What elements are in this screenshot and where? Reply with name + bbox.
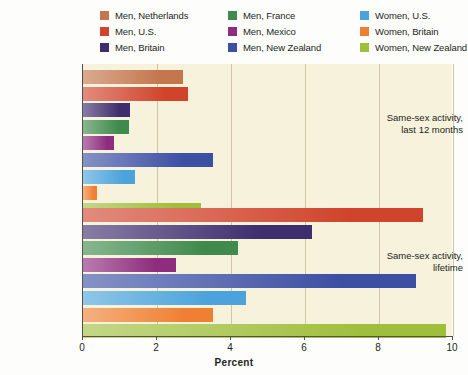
bar <box>83 70 183 84</box>
bar <box>83 170 135 184</box>
category-label-line: Same-sex activity, <box>386 250 463 262</box>
legend-item-label: Men, Britain <box>115 42 165 53</box>
legend-item-label: Women, New Zealand <box>375 42 467 53</box>
x-axis-tick-label: 8 <box>375 342 381 353</box>
bar <box>83 103 130 117</box>
x-axis-tick-label: 6 <box>301 342 307 353</box>
bar <box>83 258 176 272</box>
bar <box>83 225 312 239</box>
category-label-line: lifetime <box>386 262 463 274</box>
bar <box>83 120 129 134</box>
legend-swatch-icon <box>228 27 237 36</box>
x-axis-tick-label: 0 <box>79 342 85 353</box>
x-axis-tick <box>230 336 231 340</box>
x-axis-tick <box>82 336 83 340</box>
legend-item: Men, Netherlands <box>100 7 228 23</box>
legend-swatch-icon <box>360 11 369 20</box>
legend-item-label: Men, France <box>243 10 295 21</box>
legend-swatch-icon <box>360 27 369 36</box>
x-axis-tick-label: 2 <box>153 342 159 353</box>
bar <box>83 136 114 150</box>
gridline <box>379 64 380 336</box>
legend-item-label: Men, U.S. <box>115 26 156 37</box>
bar <box>83 87 188 101</box>
bar <box>83 241 238 255</box>
x-axis-tick <box>452 336 453 340</box>
x-axis-tick-label: 10 <box>446 342 457 353</box>
chart-legend: Men, NetherlandsMen, FranceWomen, U.S.Me… <box>100 7 462 55</box>
legend-swatch-icon <box>360 43 369 52</box>
legend-item-label: Men, Netherlands <box>115 10 188 21</box>
category-label: Same-sex activity,last 12 months <box>386 112 468 135</box>
legend-item: Men, Britain <box>100 39 228 55</box>
bar <box>83 153 213 167</box>
legend-item: Women, U.S. <box>360 7 462 23</box>
legend-item-label: Men, New Zealand <box>243 42 321 53</box>
legend-item: Men, Mexico <box>228 23 360 39</box>
bar <box>83 308 213 322</box>
gridline <box>305 64 306 336</box>
legend-item: Men, U.S. <box>100 23 228 39</box>
legend-swatch-icon <box>228 11 237 20</box>
gridline <box>453 64 454 336</box>
category-label: Same-sex activity,lifetime <box>386 250 468 273</box>
legend-item: Women, New Zealand <box>360 39 462 55</box>
x-axis-line <box>82 336 453 337</box>
x-axis-tick <box>378 336 379 340</box>
category-label-line: Same-sex activity, <box>386 112 463 124</box>
legend-swatch-icon <box>100 11 109 20</box>
legend-swatch-icon <box>100 27 109 36</box>
legend-item-label: Women, U.S. <box>375 10 430 21</box>
bar <box>83 208 423 222</box>
legend-item: Men, France <box>228 7 360 23</box>
legend-item: Women, Britain <box>360 23 462 39</box>
x-axis-tick-label: 4 <box>227 342 233 353</box>
legend-item-label: Men, Mexico <box>243 26 296 37</box>
bar <box>83 291 246 305</box>
category-label-line: last 12 months <box>386 124 463 136</box>
bar <box>83 274 416 288</box>
legend-item-label: Women, Britain <box>375 26 438 37</box>
legend-item: Men, New Zealand <box>228 39 360 55</box>
x-axis-tick <box>304 336 305 340</box>
chart-page: Men, NetherlandsMen, FranceWomen, U.S.Me… <box>0 0 468 375</box>
x-axis-title: Percent <box>0 357 468 368</box>
legend-swatch-icon <box>100 43 109 52</box>
legend-swatch-icon <box>228 43 237 52</box>
bar <box>83 186 97 200</box>
plot-area <box>82 64 452 336</box>
x-axis-tick <box>156 336 157 340</box>
